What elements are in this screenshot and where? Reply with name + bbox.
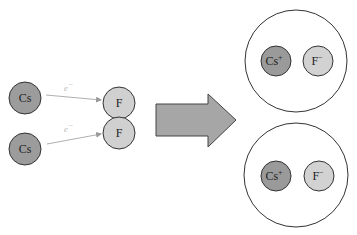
ion-pair-bottom: Cs+ F−: [244, 123, 348, 227]
f-atom-bottom: F: [103, 117, 135, 149]
electron-arrow-icon: [47, 134, 101, 144]
f-atom-label: F: [116, 126, 123, 140]
cs-atom-label: Cs: [19, 142, 32, 156]
electron-transfer-diagram: e− e− Cs Cs F F: [0, 0, 357, 235]
f-anion: F−: [303, 46, 333, 76]
cs-atom-bottom: Cs: [9, 133, 41, 165]
electron-transfer-bottom: e−: [47, 121, 101, 144]
ion-pair-top: Cs+ F−: [245, 10, 347, 112]
f-atom-label: F: [116, 96, 123, 110]
cs-atom-label: Cs: [19, 91, 32, 105]
electron-label: e−: [64, 121, 73, 134]
reactants-group: e− e− Cs Cs F F: [9, 80, 135, 165]
cs-cation: Cs+: [261, 161, 291, 191]
reaction-arrow-icon: [156, 94, 236, 147]
electron-transfer-top: e−: [46, 80, 101, 100]
electron-label: e−: [64, 80, 73, 93]
f-atom-top: F: [103, 87, 135, 119]
electron-arrow-icon: [46, 95, 101, 100]
products-group: Cs+ F− Cs+ F−: [244, 10, 348, 227]
cs-atom-top: Cs: [9, 82, 41, 114]
f-anion: F−: [304, 161, 334, 191]
cs-cation: Cs+: [261, 46, 291, 76]
